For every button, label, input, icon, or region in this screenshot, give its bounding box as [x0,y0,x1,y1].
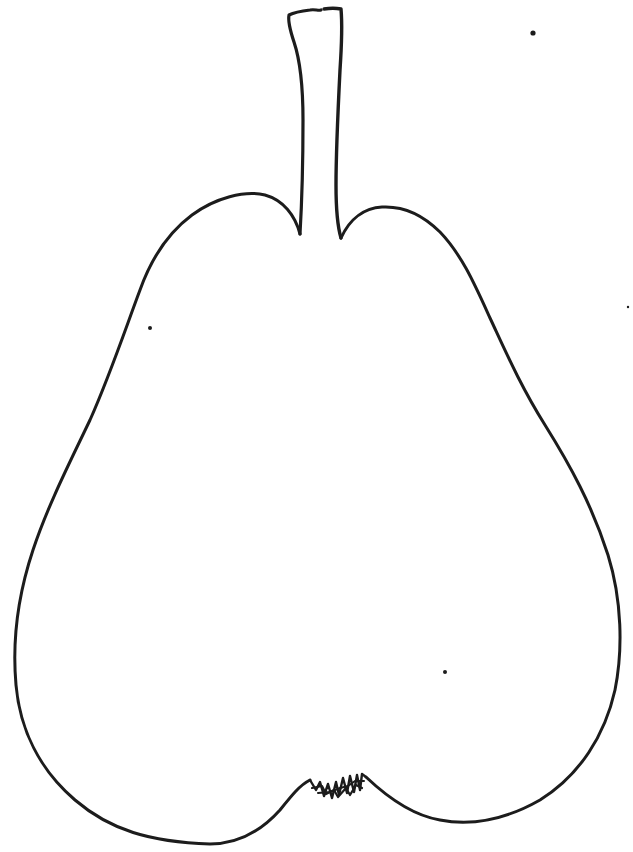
speck-dot [148,326,152,330]
blossom-end-scribble [310,774,366,798]
specks [148,30,629,674]
pear-body-outline [15,194,620,844]
speck-dot [443,670,447,674]
speck-dot [627,306,629,308]
stem-outline [289,8,342,238]
speck-dot [530,30,535,35]
drawing-canvas [0,0,633,852]
